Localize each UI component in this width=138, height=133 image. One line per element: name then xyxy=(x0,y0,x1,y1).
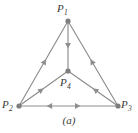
figure-panel-a: P1 P2 P3 P4 (a) xyxy=(0,0,138,133)
arrowhead-e-p1-p4 xyxy=(65,43,71,48)
node-label-p3: P3 xyxy=(121,99,131,110)
node-label-p4: P4 xyxy=(60,77,70,88)
node-p3 xyxy=(115,103,120,108)
arrowhead-e-p3-p2-left xyxy=(47,103,52,109)
node-p4 xyxy=(65,68,70,73)
edge-layer xyxy=(19,21,118,106)
figure-caption: (a) xyxy=(0,115,138,126)
node-p2 xyxy=(16,103,21,108)
node-p1 xyxy=(65,18,70,23)
node-label-p2: P2 xyxy=(2,99,12,110)
arrowhead-e-p3-p4 xyxy=(93,89,99,95)
arrowhead-e-p2-p3-right xyxy=(75,103,80,109)
arrowhead-e-p2-p4 xyxy=(37,89,43,95)
node-label-p1: P1 xyxy=(57,3,67,14)
